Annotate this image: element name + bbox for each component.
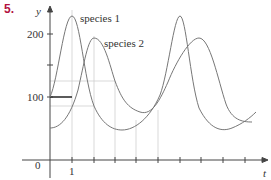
y-tick-200-label: 200 xyxy=(27,28,44,40)
x-tick-1-label: 1 xyxy=(69,165,75,177)
y-axis-label: y xyxy=(35,5,41,17)
y-axis-arrow-icon xyxy=(48,6,53,12)
species-2-label: species 2 xyxy=(104,37,144,49)
origin-label: 0 xyxy=(35,159,41,171)
species-1-curve xyxy=(50,16,256,130)
species-2-curve xyxy=(50,38,252,128)
axes xyxy=(22,6,268,178)
population-chart: y t 0 1 100 200 species 1 species 2 xyxy=(0,0,271,180)
y-tick-100-label: 100 xyxy=(27,91,44,103)
reference-lines xyxy=(50,10,158,160)
t-axis-label: t xyxy=(263,167,267,179)
species-1-label: species 1 xyxy=(80,12,120,24)
t-axis-arrow-icon xyxy=(262,158,268,163)
